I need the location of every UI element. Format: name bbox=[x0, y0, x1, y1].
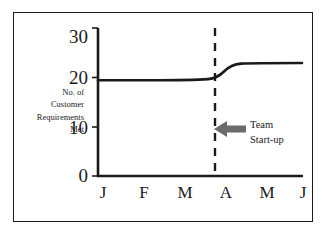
y-axis-title-line-2: Customer bbox=[22, 98, 84, 110]
y-axis-title-line-3: Requirements bbox=[22, 111, 84, 123]
y-tick-label-20: 20 bbox=[54, 68, 88, 87]
x-tick-label-apr: A bbox=[215, 184, 237, 201]
y-tick-label-0: 0 bbox=[54, 166, 88, 185]
x-tick-label-jan: J bbox=[92, 184, 114, 201]
team-startup-annotation-label: Team Start-up bbox=[250, 117, 284, 147]
y-axis-title-line-1: No. of bbox=[22, 86, 84, 98]
annotation-line-1: Team bbox=[250, 117, 284, 132]
x-tick-label-feb: F bbox=[133, 184, 155, 201]
series-line-customer-requirements-met bbox=[98, 63, 302, 80]
y-tick-label-30: 30 bbox=[54, 27, 88, 46]
annotation-line-2: Start-up bbox=[250, 132, 284, 147]
x-tick-label-jun: J bbox=[292, 184, 314, 201]
x-tick-label-may: M bbox=[256, 184, 278, 201]
chart-figure: 30 20 10 0 No. of Customer Requirements … bbox=[0, 0, 328, 237]
y-axis-title-line-4: Met bbox=[22, 123, 84, 135]
y-axis-title: No. of Customer Requirements Met bbox=[22, 86, 84, 135]
x-tick-label-mar: M bbox=[174, 184, 196, 201]
team-startup-arrow-icon bbox=[214, 121, 246, 137]
